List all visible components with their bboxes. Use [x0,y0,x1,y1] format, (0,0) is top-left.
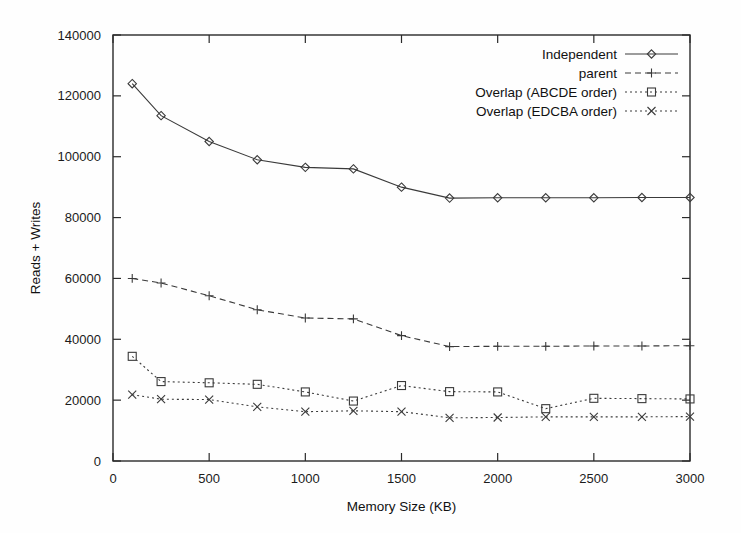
x-tick-label: 3000 [676,471,705,486]
y-tick-label: 80000 [65,210,101,225]
x-tick-label: 2500 [579,471,608,486]
legend-label-3: Overlap (EDCBA order) [476,104,617,119]
y-tick-label: 60000 [65,271,101,286]
x-tick-label: 1500 [387,471,416,486]
y-tick-label: 40000 [65,332,101,347]
y-tick-label: 120000 [58,88,101,103]
x-tick-label: 1000 [291,471,320,486]
legend-label-0: Independent [542,47,617,62]
x-axis-title: Memory Size (KB) [347,499,457,514]
y-tick-label: 0 [94,454,101,469]
y-tick-label: 140000 [58,28,101,43]
chart-figure: 020000400006000080000100000120000140000 … [0,0,741,533]
chart-background [0,0,741,533]
y-tick-label: 100000 [58,149,101,164]
x-tick-label: 500 [198,471,220,486]
x-tick-label: 2000 [483,471,512,486]
line-chart: 020000400006000080000100000120000140000 … [0,0,741,533]
y-tick-label: 20000 [65,393,101,408]
y-axis-title: Reads + Writes [28,202,43,295]
x-tick-label: 0 [109,471,116,486]
legend-label-2: Overlap (ABCDE order) [475,85,617,100]
legend-label-1: parent [579,66,618,81]
